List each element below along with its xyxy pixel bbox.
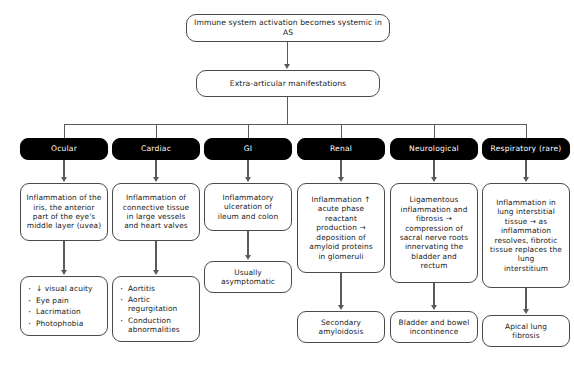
arrowhead-cardiac-outcome — [153, 270, 159, 275]
arrowhead-renal-detail — [338, 177, 344, 182]
connector-bus-to-renal — [341, 124, 342, 138]
connector-neurological-header-to-detail — [433, 160, 434, 178]
category-header-gi: GI — [204, 138, 292, 160]
connector-bus-to-neurological — [434, 124, 435, 138]
arrowhead-neurological-detail — [431, 177, 437, 182]
node-renal-outcome: Secondary amyloidosis — [297, 311, 385, 343]
connector-bus-to-ocular — [64, 124, 65, 138]
category-header-neurological: Neurological — [390, 138, 478, 160]
node-neurological-detail-label: Ligamentous inflammation and fibrosis → … — [396, 195, 472, 271]
category-header-renal-label: Renal — [303, 144, 379, 154]
node-gi-outcome-label: Usually asymptomatic — [210, 268, 286, 287]
category-header-cardiac-label: Cardiac — [118, 144, 194, 154]
node-cardiac-detail: Inflammation of connective tissue in lar… — [112, 183, 200, 241]
arrowhead-ocular-detail — [61, 177, 67, 182]
connector-bus-to-gi — [248, 124, 249, 138]
category-header-neurological-label: Neurological — [396, 144, 472, 154]
connector-cardiac-detail-to-outcome — [155, 241, 156, 271]
connector-top-to-second — [287, 42, 288, 65]
node-cardiac-detail-label: Inflammation of connective tissue in lar… — [118, 193, 194, 231]
arrowhead-renal-outcome — [338, 305, 344, 310]
node-immune-activation-label: Immune system activation becomes systemi… — [192, 18, 384, 37]
node-renal-outcome-label: Secondary amyloidosis — [303, 318, 379, 337]
node-immune-activation: Immune system activation becomes systemi… — [186, 14, 390, 42]
connector-renal-detail-to-outcome — [340, 273, 341, 306]
node-neurological-outcome-label: Bladder and bowel incontinence — [396, 318, 472, 337]
node-gi-outcome: Usually asymptomatic — [204, 261, 292, 293]
list-item: Eye pain — [36, 296, 103, 305]
category-header-respiratory-label: Respiratory (rare) — [488, 144, 564, 154]
node-neurological-outcome: Bladder and bowel incontinence — [390, 311, 478, 343]
connector-second-to-bus — [287, 97, 288, 125]
node-respiratory-detail: Inflammation in lung interstitial tissue… — [482, 183, 570, 288]
connector-gi-detail-to-outcome — [247, 231, 248, 256]
node-respiratory-detail-label: Inflammation in lung interstitial tissue… — [488, 198, 564, 274]
node-extra-articular-label: Extra-articular manifestations — [202, 79, 374, 89]
connector-respiratory-header-to-detail — [525, 160, 526, 178]
node-renal-detail: Inflammation ↑ acute phase reactant prod… — [297, 183, 385, 273]
node-ocular-detail: Inflammation of the iris, the anterior p… — [20, 183, 108, 241]
connector-gi-header-to-detail — [247, 160, 248, 178]
connector-neurological-detail-to-outcome — [433, 283, 434, 306]
node-gi-detail: Inflammatory ulceration of ileum and col… — [204, 183, 292, 231]
node-ocular-detail-label: Inflammation of the iris, the anterior p… — [26, 193, 102, 231]
category-header-ocular: Ocular — [20, 138, 108, 160]
cardiac-outcome-list: Aortitis Aortic regurgitation Conduction… — [118, 284, 195, 334]
connector-respiratory-detail-to-outcome — [525, 288, 526, 310]
list-item: Aortic regurgitation — [128, 295, 195, 313]
node-extra-articular: Extra-articular manifestations — [196, 70, 380, 97]
category-header-renal: Renal — [297, 138, 385, 160]
connector-ocular-header-to-detail — [63, 160, 64, 178]
connector-bus-horizontal — [64, 124, 526, 125]
arrowhead-gi-detail — [245, 177, 251, 182]
ocular-outcome-list: ↓ visual acuity Eye pain Lacrimation Pho… — [26, 284, 103, 328]
node-respiratory-outcome: Apical lung fibrosis — [482, 315, 570, 347]
list-item: ↓ visual acuity — [36, 284, 103, 293]
arrowhead-top-to-second — [284, 64, 290, 69]
node-renal-detail-label: Inflammation ↑ acute phase reactant prod… — [303, 195, 379, 261]
list-item: Lacrimation — [36, 307, 103, 316]
arrowhead-cardiac-detail — [153, 177, 159, 182]
connector-cardiac-header-to-detail — [155, 160, 156, 178]
connector-bus-to-cardiac — [156, 124, 157, 138]
node-respiratory-outcome-label: Apical lung fibrosis — [488, 322, 564, 341]
node-cardiac-outcome: Aortitis Aortic regurgitation Conduction… — [112, 276, 200, 342]
node-gi-detail-label: Inflammatory ulceration of ileum and col… — [210, 193, 286, 221]
list-item: Photophobia — [36, 319, 103, 328]
connector-renal-header-to-detail — [340, 160, 341, 178]
category-header-cardiac: Cardiac — [112, 138, 200, 160]
node-ocular-outcome: ↓ visual acuity Eye pain Lacrimation Pho… — [20, 276, 108, 336]
arrowhead-respiratory-detail — [523, 177, 529, 182]
category-header-respiratory: Respiratory (rare) — [482, 138, 570, 160]
arrowhead-respiratory-outcome — [523, 309, 529, 314]
category-header-gi-label: GI — [210, 144, 286, 154]
arrowhead-gi-outcome — [245, 255, 251, 260]
flowchart-canvas: Immune system activation becomes systemi… — [0, 0, 574, 368]
node-neurological-detail: Ligamentous inflammation and fibrosis → … — [390, 183, 478, 283]
arrowhead-neurological-outcome — [431, 305, 437, 310]
category-header-ocular-label: Ocular — [26, 144, 102, 154]
connector-ocular-detail-to-outcome — [63, 241, 64, 271]
arrowhead-ocular-outcome — [61, 270, 67, 275]
list-item: Aortitis — [128, 284, 195, 293]
connector-bus-to-respiratory — [526, 124, 527, 138]
list-item: Conduction abnormalities — [128, 316, 195, 334]
